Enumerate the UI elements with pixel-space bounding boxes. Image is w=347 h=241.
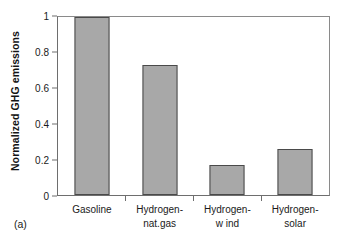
bars-layer	[58, 17, 329, 195]
x-label-hydrogen-nat-gas: Hydrogen- nat.gas	[126, 203, 194, 230]
x-label-hydrogen-wind-line2: w ind	[194, 217, 262, 231]
x-label-hydrogen-solar-line1: Hydrogen-	[272, 204, 319, 215]
y-tick-label-1: 1	[43, 11, 49, 22]
x-axis-labels: Gasoline Hydrogen- nat.gas Hydrogen- w i…	[58, 203, 329, 241]
bar-slot-hydrogen-nat-gas	[126, 17, 194, 195]
y-tick-label-0.8: 0.8	[35, 47, 49, 58]
x-label-hydrogen-wind: Hydrogen- w ind	[194, 203, 262, 230]
y-tick-label-0.6: 0.6	[35, 83, 49, 94]
bar-hydrogen-nat-gas[interactable]	[142, 65, 177, 195]
y-tick-label-0.4: 0.4	[35, 119, 49, 130]
x-label-hydrogen-nat-gas-line1: Hydrogen-	[136, 204, 183, 215]
x-label-hydrogen-solar: Hydrogen- solar	[261, 203, 329, 230]
bar-hydrogen-wind[interactable]	[210, 165, 245, 195]
x-tickmark-2	[193, 196, 194, 201]
ghg-emissions-bar-chart: Normalized GHG emissions 1 0.8 0.6 0.4 0…	[0, 0, 347, 241]
x-label-gasoline: Gasoline	[58, 203, 126, 217]
x-label-gasoline-line1: Gasoline	[72, 204, 111, 215]
panel-label: (a)	[14, 218, 27, 230]
y-tick-label-0: 0	[43, 191, 49, 202]
y-axis-ticks: 1 0.8 0.6 0.4 0.2 0	[0, 0, 57, 212]
bar-hydrogen-solar[interactable]	[278, 149, 313, 195]
x-label-hydrogen-wind-line1: Hydrogen-	[204, 204, 251, 215]
x-tickmark-3	[261, 196, 262, 201]
bar-gasoline[interactable]	[74, 17, 109, 195]
x-label-hydrogen-solar-line2: solar	[261, 217, 329, 231]
bar-slot-hydrogen-wind	[194, 17, 262, 195]
bar-slot-hydrogen-solar	[261, 17, 329, 195]
x-tickmark-1	[125, 196, 126, 201]
x-label-hydrogen-nat-gas-line2: nat.gas	[126, 217, 194, 231]
bar-slot-gasoline	[58, 17, 126, 195]
y-tick-label-0.2: 0.2	[35, 155, 49, 166]
